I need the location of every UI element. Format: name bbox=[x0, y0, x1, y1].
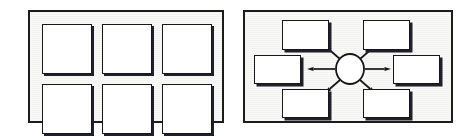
grid-square-2 bbox=[102, 24, 152, 74]
hub-node bbox=[336, 54, 364, 84]
grid-square-3 bbox=[162, 24, 212, 74]
hub-box-bottom-right bbox=[363, 89, 410, 118]
grid-square-1 bbox=[42, 24, 92, 74]
arrow-to-bottom-right-shaft bbox=[360, 80, 370, 89]
hub-box-middle-left bbox=[254, 55, 301, 84]
figure-root bbox=[0, 0, 472, 136]
hub-box-top-right bbox=[363, 20, 410, 50]
arrow-to-middle-left-head bbox=[307, 67, 314, 71]
hub-box-middle-right bbox=[393, 55, 440, 84]
hub-and-spoke-panel bbox=[243, 10, 453, 123]
grid-square-6 bbox=[162, 84, 212, 134]
grid-square-4 bbox=[42, 84, 92, 134]
arrow-to-middle-right bbox=[365, 67, 391, 71]
arrow-to-bottom-left-shaft bbox=[330, 80, 340, 89]
arrow-to-middle-left bbox=[307, 67, 335, 71]
hub-box-top-left bbox=[282, 20, 329, 50]
arrow-to-top-right-shaft bbox=[360, 50, 370, 59]
arrow-to-middle-right-head bbox=[385, 67, 392, 71]
grid-of-squares-panel bbox=[28, 10, 224, 123]
grid-square-5 bbox=[102, 84, 152, 134]
arrow-to-top-left-shaft bbox=[330, 50, 340, 59]
hub-box-bottom-left bbox=[282, 89, 329, 118]
